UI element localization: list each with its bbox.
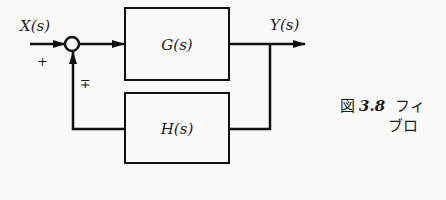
caption-line1: フィ bbox=[395, 97, 425, 115]
feedback-branch-line bbox=[229, 44, 270, 129]
summing-junction bbox=[65, 37, 79, 51]
feedback-sign: ∓ bbox=[80, 76, 91, 91]
forward-block-label: G(s) bbox=[161, 36, 193, 54]
output-label: Y(s) bbox=[270, 16, 299, 34]
feedback-block-label: H(s) bbox=[160, 120, 194, 138]
figure-number: 3.8 bbox=[359, 97, 385, 115]
figure-caption: 図3.8フィ ブロ bbox=[340, 96, 425, 136]
input-sign: + bbox=[37, 54, 48, 69]
caption-line2: ブロ bbox=[340, 116, 425, 136]
input-label: X(s) bbox=[19, 17, 50, 35]
figure-prefix: 図 bbox=[340, 97, 355, 115]
